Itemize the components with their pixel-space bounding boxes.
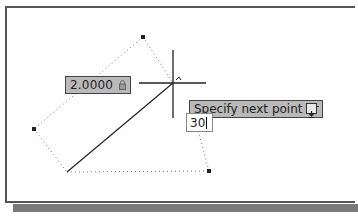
options-button[interactable] <box>306 103 317 114</box>
angle-marker-icon <box>176 77 181 80</box>
rubber-band-line <box>67 83 173 172</box>
angle-input-field[interactable]: 30 <box>186 113 213 132</box>
down-arrow-icon <box>307 110 316 119</box>
text-caret <box>206 117 207 129</box>
lock-icon <box>119 80 126 90</box>
angle-input-value: 30 <box>190 116 205 130</box>
distance-value: 2.0000 <box>70 78 113 92</box>
dotted-guide-lines <box>34 37 209 172</box>
distance-dynamic-input[interactable]: 2.0000 <box>65 76 131 94</box>
